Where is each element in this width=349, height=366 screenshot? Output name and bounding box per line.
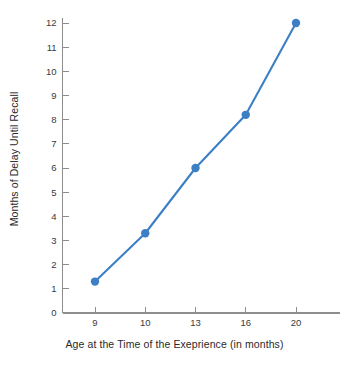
y-tick-label: 0 <box>51 307 56 318</box>
y-tick-label: 10 <box>46 66 57 77</box>
y-tick-label: 5 <box>51 187 56 198</box>
data-point-marker <box>191 164 199 172</box>
plot-area: 0123456789101112 910131620 <box>0 0 349 366</box>
x-tick-label: 10 <box>140 317 151 328</box>
x-tick-label: 9 <box>92 317 97 328</box>
y-tick-label: 8 <box>51 114 56 125</box>
y-tick-label: 12 <box>46 17 57 28</box>
y-axis-ticks: 0123456789101112 <box>46 17 69 318</box>
x-tick-label: 16 <box>240 317 251 328</box>
x-axis-ticks: 910131620 <box>92 307 301 328</box>
y-tick-label: 3 <box>51 235 56 246</box>
data-point-markers <box>91 19 300 286</box>
y-tick-label: 2 <box>51 259 56 270</box>
data-point-marker <box>292 19 300 27</box>
data-series-line <box>95 23 296 282</box>
y-tick-label: 11 <box>47 42 57 53</box>
y-tick-label: 9 <box>51 90 56 101</box>
x-axis-title-label: Age at the Time of the Exeprience (in mo… <box>65 338 283 350</box>
x-tick-label: 20 <box>291 317 302 328</box>
y-tick-label: 4 <box>51 211 56 222</box>
chart-container: Months of Delay Until Recall 01234567891… <box>0 0 349 366</box>
x-axis-title: Age at the Time of the Exeprience (in mo… <box>0 338 349 350</box>
data-point-marker <box>91 277 99 285</box>
y-tick-label: 6 <box>51 162 56 173</box>
y-tick-label: 1 <box>51 283 56 294</box>
y-tick-label: 7 <box>51 138 56 149</box>
data-point-marker <box>141 229 149 237</box>
x-tick-label: 13 <box>190 317 201 328</box>
data-point-marker <box>242 111 250 119</box>
